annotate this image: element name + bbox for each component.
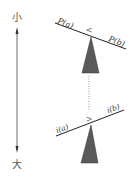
label-p-b: P(b) xyxy=(106,34,126,49)
label-i-b: i(b) xyxy=(106,102,121,115)
bottom-fulcrum-triangle xyxy=(81,125,98,163)
greater-than-sign: > xyxy=(86,115,93,124)
top-balance: P(a) P(b) < xyxy=(55,16,126,73)
down-arrow-icon xyxy=(16,27,19,153)
bottom-balance: i(a) i(b) > xyxy=(55,102,124,163)
label-i-a: i(a) xyxy=(55,122,70,135)
label-p-a: P(a) xyxy=(55,16,74,30)
top-fulcrum-triangle xyxy=(82,37,99,73)
large-label: 大 xyxy=(12,158,22,170)
balance-diagram: 小 大 P(a) P(b) < i(a) i(b) > xyxy=(0,0,140,177)
less-than-sign: < xyxy=(86,26,93,35)
small-label: 小 xyxy=(12,12,22,23)
